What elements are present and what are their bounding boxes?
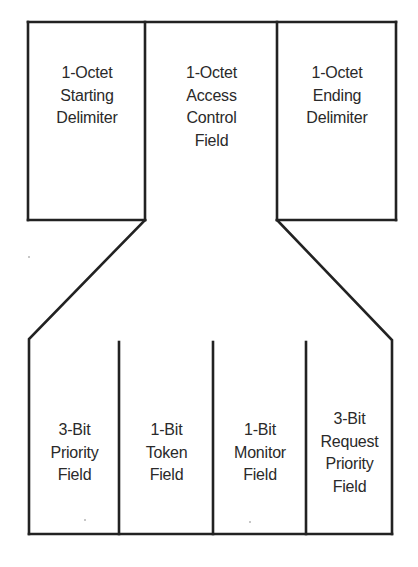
- expansion-left-edge: [29, 220, 145, 534]
- label-line: 1-Octet: [147, 62, 276, 85]
- priority-field-label: 3-Bit Priority Field: [31, 419, 118, 487]
- label-line: Control: [147, 107, 276, 130]
- label-line: Priority: [308, 453, 391, 476]
- access-control-label: 1-Octet Access Control Field: [147, 62, 276, 152]
- label-line: Field: [215, 464, 305, 487]
- label-line: 1-Bit: [215, 419, 305, 442]
- starting-delimiter-label: 1-Octet Starting Delimiter: [30, 62, 144, 130]
- label-line: 1-Bit: [121, 419, 212, 442]
- label-line: Delimiter: [279, 107, 395, 130]
- label-line: Field: [31, 464, 118, 487]
- scan-speck: [84, 519, 86, 521]
- label-line: Token: [121, 442, 212, 465]
- monitor-field-label: 1-Bit Monitor Field: [215, 419, 305, 487]
- scan-speck: [28, 256, 30, 258]
- ending-delimiter-label: 1-Octet Ending Delimiter: [279, 62, 395, 130]
- label-line: 1-Octet: [30, 62, 144, 85]
- label-line: Field: [308, 476, 391, 499]
- scan-speck: [249, 521, 251, 523]
- request-priority-field-label: 3-Bit Request Priority Field: [308, 408, 391, 498]
- label-line: 3-Bit: [308, 408, 391, 431]
- label-line: Field: [121, 464, 212, 487]
- token-field-label: 1-Bit Token Field: [121, 419, 212, 487]
- label-line: Access: [147, 85, 276, 108]
- label-line: Request: [308, 431, 391, 454]
- label-line: Monitor: [215, 442, 305, 465]
- label-line: Delimiter: [30, 107, 144, 130]
- label-line: Field: [147, 130, 276, 153]
- label-line: 1-Octet: [279, 62, 395, 85]
- label-line: Priority: [31, 442, 118, 465]
- label-line: 3-Bit: [31, 419, 118, 442]
- label-line: Ending: [279, 85, 395, 108]
- label-line: Starting: [30, 85, 144, 108]
